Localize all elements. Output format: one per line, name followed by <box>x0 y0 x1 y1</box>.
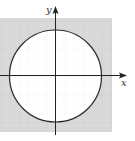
y-axis-label: y <box>45 4 52 15</box>
circle-graph-diagram: y x <box>0 0 135 141</box>
x-axis-label: x <box>121 77 127 88</box>
